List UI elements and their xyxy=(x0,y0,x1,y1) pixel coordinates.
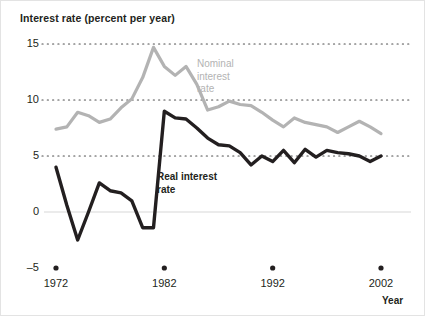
x-axis-tick-dots xyxy=(53,265,383,270)
x-tick-label: 1972 xyxy=(33,277,79,289)
x-tick-label: 2002 xyxy=(358,277,404,289)
x-tick-label: 1992 xyxy=(250,277,296,289)
y-tick-label: 10 xyxy=(13,93,39,105)
chart-figure: Interest rate (percent per year) 15 10 5… xyxy=(0,0,425,316)
y-tick-label: –5 xyxy=(13,261,39,273)
series-label-real: Real interest rate xyxy=(157,171,217,196)
x-tick-label: 1982 xyxy=(141,277,187,289)
y-tick-label: 5 xyxy=(13,149,39,161)
x-axis-title: Year xyxy=(382,295,403,306)
series-label-nominal: Nominal interest rate xyxy=(197,58,234,96)
chart-svg xyxy=(1,1,425,316)
y-tick-label: 0 xyxy=(13,205,39,217)
y-tick-label: 15 xyxy=(13,37,39,49)
plot-area xyxy=(1,1,425,316)
